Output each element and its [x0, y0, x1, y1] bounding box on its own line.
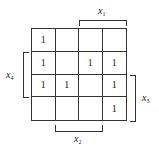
x4-sub: 4	[10, 75, 13, 81]
km-cell-r2-c3: 1	[103, 75, 127, 98]
km-cell-r1-c2: 1	[79, 52, 103, 75]
km-cell-r1-c0: 1	[32, 52, 56, 75]
x1-bracket	[79, 20, 127, 26]
km-cell-r0-c0: 1	[32, 29, 56, 52]
km-cell-r0-c3	[103, 29, 127, 52]
x1-label: x1	[98, 6, 105, 17]
x3-bracket	[130, 75, 136, 122]
km-cell-r3-c1	[56, 97, 80, 120]
x4-label: x4	[6, 70, 13, 81]
x2-sub: 2	[78, 139, 81, 145]
km-cell-r1-c1	[56, 52, 80, 75]
km-cell-r1-c3: 1	[103, 52, 127, 75]
karnaugh-map-grid: 1 1 1 1 1 1 1 1	[31, 28, 127, 121]
km-cell-r3-c0	[32, 97, 56, 120]
x2-bracket	[55, 125, 103, 132]
x3-label: x3	[142, 93, 149, 104]
km-cell-r2-c2	[79, 75, 103, 98]
x3-sub: 3	[146, 98, 149, 104]
km-cell-r2-c1: 1	[56, 75, 80, 98]
km-cell-r0-c1	[56, 29, 80, 52]
km-cell-r2-c0: 1	[32, 75, 56, 98]
x4-bracket	[23, 52, 29, 98]
x1-sub: 1	[102, 11, 105, 17]
x2-label: x2	[74, 134, 81, 145]
km-cell-r0-c2	[79, 29, 103, 52]
km-cell-r3-c2	[79, 97, 103, 120]
km-cell-r3-c3: 1	[103, 97, 127, 120]
